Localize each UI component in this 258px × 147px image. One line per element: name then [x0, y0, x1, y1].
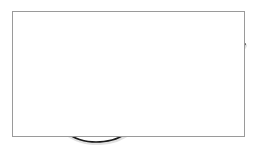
plot-frame-border — [12, 11, 245, 137]
figure-root — [0, 0, 258, 147]
